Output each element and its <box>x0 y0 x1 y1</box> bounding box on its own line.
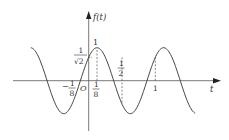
y-axis-label: f(t) <box>92 12 106 22</box>
x-one-label: 1 <box>153 84 158 93</box>
neg-eighth-numerator: 1 <box>70 79 75 88</box>
origin-label: O <box>80 84 87 93</box>
neg-eighth-denominator: 8 <box>70 89 75 98</box>
neg-eighth-sign: − <box>62 82 69 91</box>
x-axis-arrow-icon <box>213 78 221 83</box>
x-axis-label: t <box>210 84 214 94</box>
function-plot: f(t) t O 1 1 √2 − 1 8 1 8 1 2 1 <box>0 0 229 140</box>
half-denominator: 2 <box>119 69 124 78</box>
half-numerator: 1 <box>119 59 124 68</box>
y-axis-arrow-icon <box>86 11 91 19</box>
sqrt2-numerator: 1 <box>79 46 84 55</box>
dashed-guides <box>97 48 155 104</box>
sqrt2-denominator: √2 <box>74 57 84 66</box>
eighth-numerator: 1 <box>94 80 99 89</box>
peak-one-label: 1 <box>93 38 98 47</box>
eighth-denominator: 8 <box>94 90 99 99</box>
